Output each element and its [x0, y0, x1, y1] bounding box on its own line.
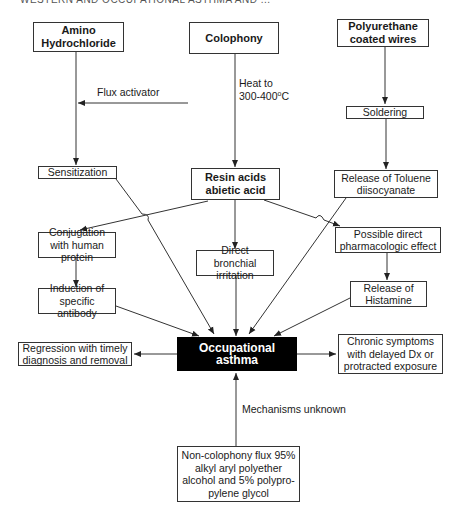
- node-label: Possible direct pharmacologic effect: [338, 228, 438, 253]
- label-flux-activator: Flux activator: [97, 86, 159, 99]
- node-label: Conjugation with human protein: [41, 226, 113, 264]
- heat-unit: C: [281, 90, 289, 102]
- node-label: Resin acids abietic acid: [194, 171, 277, 197]
- node-polyurethane: Polyurethane coated wires: [337, 19, 429, 47]
- node-label: Polyurethane coated wires: [340, 20, 426, 46]
- node-sensitization: Sensitization: [38, 166, 117, 179]
- heat-line-1: Heat to: [239, 77, 289, 90]
- node-antibody: Induction of specific antibody: [38, 288, 116, 314]
- node-regression: Regression with timely diagnosis and rem…: [18, 342, 132, 366]
- node-label: Occupational asthma: [180, 342, 294, 367]
- node-chronic: Chronic symptoms with delayed Dx or prot…: [338, 334, 443, 374]
- node-label: Induction of specific antibody: [41, 282, 113, 320]
- node-non-colophony-flux: Non-colophony flux 95% alkyl aryl polyet…: [177, 446, 300, 502]
- node-colophony: Colophony: [189, 22, 279, 54]
- node-label: Colophony: [205, 32, 262, 45]
- node-amino-hydrochloride: Amino Hydrochloride: [33, 22, 124, 52]
- node-toluene: Release of Toluene diisocyanate: [334, 170, 438, 198]
- node-label: Amino Hydrochloride: [36, 24, 121, 50]
- node-conjugation: Conjugation with human protein: [38, 232, 116, 258]
- node-resin-acids: Resin acids abietic acid: [191, 168, 280, 200]
- node-label: Sensitization: [48, 166, 108, 179]
- node-label: Non-colophony flux 95% alkyl aryl polyet…: [180, 449, 297, 499]
- arrow-histamine-asthma: [274, 298, 350, 336]
- node-histamine: Release of Histamine: [350, 281, 427, 307]
- node-bronchial: Direct bronchial irritation: [196, 250, 274, 276]
- node-pharmacologic: Possible direct pharmacologic effect: [335, 227, 441, 253]
- label-heat: Heat to 300-400oC: [239, 77, 289, 102]
- heat-range: 300-400: [239, 90, 278, 102]
- node-label: Release of Histamine: [353, 282, 424, 307]
- node-occupational-asthma: Occupational asthma: [177, 337, 297, 371]
- node-soldering: Soldering: [346, 106, 424, 119]
- node-label: Release of Toluene diisocyanate: [337, 172, 435, 197]
- node-label: Chronic symptoms with delayed Dx or prot…: [341, 335, 440, 373]
- heat-line-2: 300-400oC: [239, 90, 289, 103]
- node-label: Soldering: [363, 106, 407, 119]
- label-mechanisms-unknown: Mechanisms unknown: [242, 403, 346, 416]
- node-label: Direct bronchial irritation: [199, 244, 271, 282]
- arrow-antibody-asthma: [116, 306, 199, 336]
- node-label: Regression with timely diagnosis and rem…: [21, 342, 129, 367]
